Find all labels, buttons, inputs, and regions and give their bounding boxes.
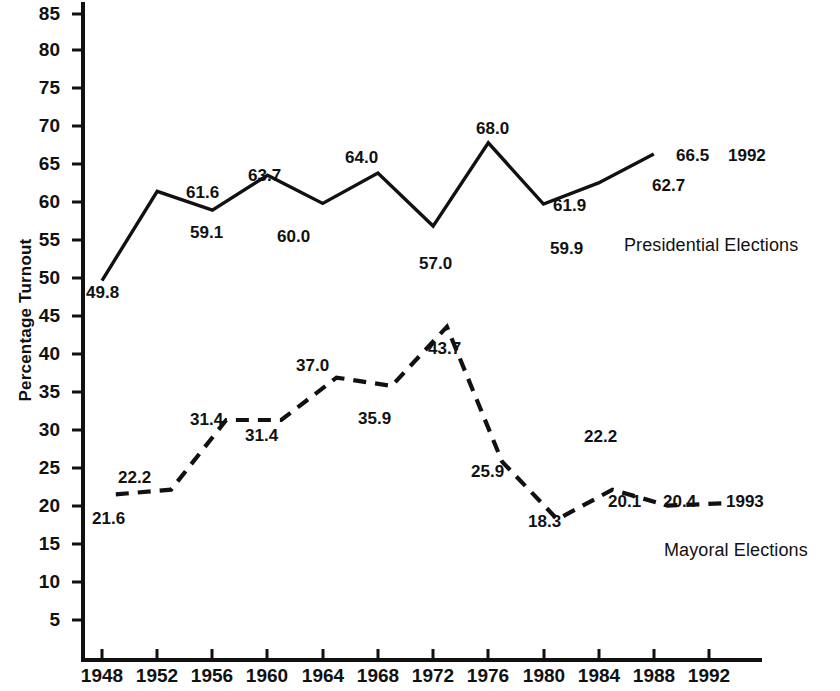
data-point-label: 31.4: [190, 411, 223, 428]
axes-group: [81, 2, 762, 661]
y-axis-tick-label: 65: [14, 154, 60, 173]
y-axis-tick-label: 80: [14, 40, 60, 59]
mayoral-end-year-annotation: 1993: [726, 493, 764, 510]
x-axis-tick-label: 1976: [456, 666, 520, 685]
data-point-label: 68.0: [476, 120, 509, 137]
x-axis-tick-label: 1992: [677, 666, 741, 685]
data-point-label: 57.0: [419, 255, 452, 272]
y-axis-tick-label: 50: [14, 268, 60, 287]
mayoral-series-label: Mayoral Elections: [664, 541, 808, 559]
data-point-label: 20.1: [608, 493, 641, 510]
y-axis-tick-label: 55: [14, 230, 60, 249]
y-axis-tick-label: 40: [14, 344, 60, 363]
y-axis-tick-label: 75: [14, 78, 60, 97]
data-point-label: 59.1: [190, 224, 223, 241]
chart-plot-area: [0, 0, 840, 691]
data-point-label: 35.9: [358, 410, 391, 427]
y-axis-tick-label: 30: [14, 420, 60, 439]
data-point-label: 22.2: [584, 428, 617, 445]
y-axis-tick-label: 15: [14, 534, 60, 553]
data-point-label: 43.7: [428, 340, 461, 357]
y-axis-tick-label: 10: [14, 572, 60, 591]
x-axis-tick-label: 1960: [235, 666, 299, 685]
data-point-label: 20.4: [663, 493, 696, 510]
data-point-label: 61.6: [186, 184, 219, 201]
y-axis-tick-label: 70: [14, 116, 60, 135]
data-point-label: 49.8: [86, 284, 119, 301]
data-point-label: 61.9: [553, 197, 586, 214]
data-point-label: 64.0: [345, 149, 378, 166]
data-point-label: 63.7: [248, 167, 281, 184]
data-point-label: 62.7: [652, 177, 685, 194]
y-axis-tick-label: 60: [14, 192, 60, 211]
data-point-label: 37.0: [296, 357, 329, 374]
presidential-end-year-annotation: 1992: [728, 147, 766, 164]
data-point-label: 21.6: [92, 510, 125, 527]
y-axis-tick-label: 45: [14, 306, 60, 325]
y-axis-tick-label: 25: [14, 458, 60, 477]
data-point-label: 31.4: [245, 427, 278, 444]
y-axis-tick-label: 20: [14, 496, 60, 515]
data-point-label: 66.5: [676, 147, 709, 164]
voter-turnout-chart: Percentage Turnout 858075706560555045403…: [0, 0, 840, 691]
presidential-series-label: Presidential Elections: [624, 236, 798, 254]
data-point-label: 18.3: [528, 513, 561, 530]
data-point-label: 25.9: [471, 463, 504, 480]
data-point-label: 22.2: [118, 469, 151, 486]
y-axis-tick-label: 35: [14, 382, 60, 401]
data-point-label: 60.0: [277, 228, 310, 245]
y-axis-tick-label: 5: [14, 610, 60, 629]
y-axis-tick-label: 85: [14, 4, 60, 23]
data-point-label: 59.9: [550, 240, 583, 257]
